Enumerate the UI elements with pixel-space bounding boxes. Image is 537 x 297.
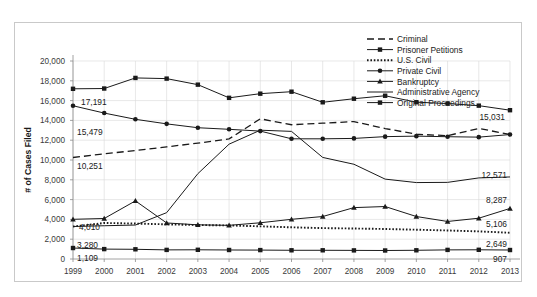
x-tick-label: 2007	[314, 267, 333, 276]
data-point-marker	[321, 100, 325, 104]
data-point-marker	[445, 248, 449, 252]
data-point-label: 1,109	[77, 253, 98, 263]
x-tick-label: 2003	[189, 267, 208, 276]
data-point-marker	[102, 86, 106, 90]
legend-item-prisoner-petitions[interactable]: Prisoner Petitions	[367, 45, 463, 55]
data-point-marker	[320, 137, 325, 142]
data-point-marker	[164, 248, 168, 252]
legend-label-text: Criminal	[397, 34, 428, 44]
data-point-marker	[133, 76, 137, 80]
x-tick-label: 2005	[251, 267, 270, 276]
x-tick-label: 2013	[501, 267, 520, 276]
data-point-label: 12,571	[481, 170, 507, 180]
x-tick-label: 2010	[407, 267, 426, 276]
data-point-marker	[71, 103, 76, 108]
data-point-marker	[352, 248, 356, 252]
data-point-marker	[383, 134, 388, 139]
data-point-marker	[476, 135, 481, 140]
legend-item-private-civil[interactable]: Private Civil	[367, 66, 441, 76]
data-point-marker	[227, 248, 231, 252]
legend-swatch-marker	[378, 69, 383, 74]
x-tick-label: 1999	[64, 267, 83, 276]
legend-swatch-marker	[378, 100, 382, 104]
data-point-marker	[508, 248, 512, 252]
data-point-label: 10,251	[77, 161, 103, 171]
data-point-label: 15,031	[479, 112, 505, 122]
x-tick-label: 2008	[345, 267, 364, 276]
y-tick-label: 20,000	[40, 57, 65, 66]
y-tick-label: 6,000	[45, 196, 66, 205]
data-point-marker	[227, 127, 232, 132]
data-point-marker	[414, 134, 419, 139]
data-point-marker	[414, 248, 418, 252]
legend-label-text: Prisoner Petitions	[397, 45, 463, 55]
data-point-label: 17,191	[81, 97, 107, 107]
data-point-label: 5,106	[486, 219, 507, 229]
chart-figure: 02,0004,0006,0008,00010,00012,00014,0001…	[14, 22, 522, 282]
x-tick-label: 2011	[439, 267, 457, 276]
data-point-marker	[196, 82, 200, 86]
data-point-marker	[227, 96, 231, 100]
x-tick-label: 2012	[470, 267, 489, 276]
data-point-label: 3,280	[77, 240, 98, 250]
x-tick-label: 2009	[376, 267, 395, 276]
data-point-marker	[196, 125, 201, 130]
data-point-marker	[164, 76, 168, 80]
data-point-marker	[258, 248, 262, 252]
data-point-marker	[102, 111, 107, 116]
y-tick-label: 18,000	[40, 77, 65, 86]
data-point-marker	[477, 248, 481, 252]
y-tick-label: 0	[60, 255, 65, 264]
legend-label-text: Private Civil	[397, 66, 441, 76]
legend-item-u-s-civil[interactable]: U.S. Civil	[367, 55, 432, 65]
data-point-marker	[258, 91, 262, 95]
data-point-marker	[383, 94, 387, 98]
legend-item-original-proceedings[interactable]: Original Proceedings	[367, 98, 475, 108]
data-point-marker	[477, 103, 481, 107]
y-tick-label: 16,000	[40, 97, 65, 106]
data-point-marker	[102, 247, 106, 251]
data-point-marker	[289, 89, 293, 93]
y-tick-label: 8,000	[45, 176, 66, 185]
data-point-marker	[164, 122, 169, 127]
data-point-marker	[508, 108, 512, 112]
y-tick-label: 4,000	[45, 215, 66, 224]
x-tick-label: 2001	[126, 267, 145, 276]
x-tick-label: 2000	[95, 267, 114, 276]
legend-label-text: Administrative Agency	[397, 87, 480, 97]
data-point-marker	[352, 97, 356, 101]
data-point-marker	[133, 117, 138, 122]
data-point-marker	[445, 134, 450, 139]
y-axis-title-text: # of Cases Filed	[23, 127, 33, 192]
data-point-label: 2,649	[486, 239, 507, 249]
data-point-marker	[289, 248, 293, 252]
legend-item-bankruptcy[interactable]: Bankruptcy	[367, 77, 440, 87]
y-axis-title: # of Cases Filed	[23, 127, 33, 192]
data-point-marker	[133, 247, 137, 251]
data-point-marker	[352, 136, 357, 141]
data-point-marker	[383, 248, 387, 252]
data-point-label: 4,010	[79, 222, 100, 232]
x-tick-label: 2006	[282, 267, 301, 276]
x-axis-tick-labels: 1999200020012002200320042005200620072008…	[64, 259, 520, 276]
data-point-marker	[321, 248, 325, 252]
data-point-label: 15,479	[77, 127, 103, 137]
legend-label-text: Bankruptcy	[397, 77, 440, 87]
data-point-label: 8,287	[486, 195, 507, 205]
data-point-marker	[507, 206, 513, 211]
line-chart-canvas: 02,0004,0006,0008,00010,00012,00014,0001…	[15, 23, 523, 283]
y-tick-label: 14,000	[40, 116, 65, 125]
legend-item-criminal[interactable]: Criminal	[367, 34, 428, 44]
axes-group	[73, 55, 520, 259]
data-point-label: 907	[493, 254, 507, 264]
y-tick-label: 10,000	[40, 156, 65, 165]
x-tick-label: 2002	[158, 267, 177, 276]
x-tick-label: 2004	[220, 267, 239, 276]
legend-label-text: Original Proceedings	[397, 98, 475, 108]
data-point-marker	[289, 137, 294, 142]
data-point-marker	[71, 87, 75, 91]
y-axis-tick-labels: 02,0004,0006,0008,00010,00012,00014,0001…	[40, 57, 73, 264]
data-point-marker	[133, 198, 139, 203]
y-tick-label: 12,000	[40, 136, 65, 145]
data-point-marker	[196, 248, 200, 252]
